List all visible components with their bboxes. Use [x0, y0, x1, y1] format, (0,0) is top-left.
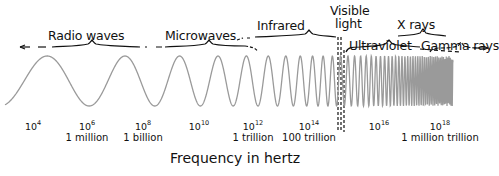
band-visible-line2: light — [335, 17, 362, 30]
band-gamma-rays: Gamma rays — [421, 39, 499, 52]
tick-sublabel: 1 billion — [123, 132, 162, 143]
tick-label: 1016 — [369, 119, 389, 132]
band-radio-waves: Radio waves — [48, 29, 124, 42]
tick-label: 1018 — [430, 119, 450, 132]
tick-label: 1014 — [299, 119, 319, 132]
wave — [5, 56, 453, 106]
tick-label: 1010 — [189, 119, 209, 132]
tick-sublabel: 1 million — [66, 132, 109, 143]
band-x-rays: X rays — [397, 18, 435, 31]
band-microwaves: Microwaves — [165, 29, 236, 42]
tick-label: 106 — [79, 119, 95, 132]
tick-sublabel: 100 trillion — [282, 132, 336, 143]
tick-sublabel: 1 million trillion — [401, 132, 479, 143]
tick-sublabel: 1 trillion — [232, 132, 273, 143]
axis-label: Frequency in hertz — [170, 150, 300, 166]
band-ultraviolet: Ultraviolet — [349, 39, 412, 52]
tick-label: 104 — [25, 119, 41, 132]
band-infrared: Infrared — [257, 19, 305, 32]
tick-label: 108 — [135, 119, 151, 132]
tick-label: 1012 — [243, 119, 263, 132]
